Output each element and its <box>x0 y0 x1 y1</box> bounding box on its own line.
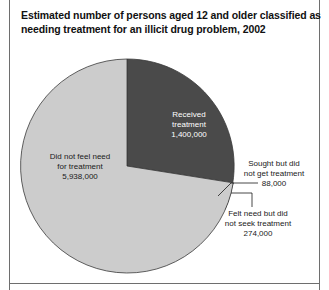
pie-label-did-not-feel-need-line-2: for treatment <box>26 162 134 172</box>
pie-label-sought-line-1: Sought but did <box>226 159 322 169</box>
pie-label-received-line-1: Received <box>152 110 226 120</box>
pie-chart-svg <box>0 0 329 290</box>
chart-figure: Estimated number of persons aged 12 and … <box>0 0 329 290</box>
pie-label-received-line-2: treatment <box>152 120 226 130</box>
pie-chart-area: Received treatment 1,400,000 Did not fee… <box>0 0 329 290</box>
pie-label-felt-need-line-1: Felt need but did <box>196 209 320 219</box>
pie-label-sought-value: 88,000 <box>226 179 322 189</box>
pie-label-received-value: 1,400,000 <box>152 130 226 140</box>
leader-line-felt-need <box>231 193 252 207</box>
pie-label-sought-line-2: not get treatment <box>226 169 322 179</box>
pie-label-felt-need-value: 274,000 <box>196 229 320 239</box>
pie-label-sought-but-did-not-get-treatment: Sought but did not get treatment 88,000 <box>226 159 322 189</box>
pie-label-felt-need-but-did-not-seek-treatment: Felt need but did not seek treatment 274… <box>196 209 320 239</box>
pie-label-felt-need-line-2: not seek treatment <box>196 219 320 229</box>
pie-label-did-not-feel-need: Did not feel need for treatment 5,938,00… <box>26 152 134 182</box>
pie-label-did-not-feel-need-line-1: Did not feel need <box>26 152 134 162</box>
pie-label-received-treatment: Received treatment 1,400,000 <box>152 110 226 140</box>
pie-label-did-not-feel-need-value: 5,938,000 <box>26 172 134 182</box>
